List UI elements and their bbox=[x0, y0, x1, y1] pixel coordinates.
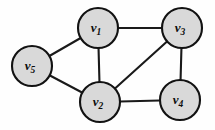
graph-node-v1[interactable]: v1 bbox=[78, 8, 118, 48]
graph-figure: v1v2v3v4v5 bbox=[0, 0, 215, 130]
graph-node-subscript-v5: 5 bbox=[31, 65, 36, 75]
graph-canvas: v1v2v3v4v5 bbox=[0, 0, 215, 130]
graph-node-v2[interactable]: v2 bbox=[80, 82, 120, 122]
graph-node-v3[interactable]: v3 bbox=[162, 8, 202, 48]
graph-node-v5[interactable]: v5 bbox=[12, 46, 52, 86]
graph-node-subscript-v3: 3 bbox=[180, 27, 186, 37]
node-layer: v1v2v3v4v5 bbox=[12, 8, 202, 122]
graph-node-subscript-v4: 4 bbox=[178, 99, 184, 109]
graph-node-subscript-v2: 2 bbox=[98, 101, 104, 111]
graph-node-v4[interactable]: v4 bbox=[160, 80, 200, 120]
graph-node-subscript-v1: 1 bbox=[97, 27, 102, 37]
